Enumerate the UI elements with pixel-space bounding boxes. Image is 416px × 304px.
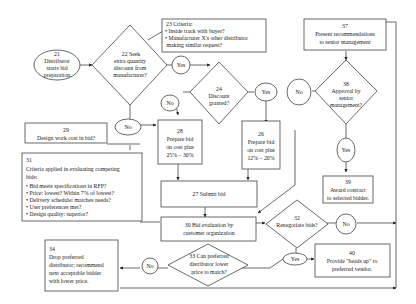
svg-text:Yes: Yes xyxy=(177,62,186,68)
flowchart-diagram: 21Distributorstarts bidpreparation 22 Se… xyxy=(0,0,416,304)
node-28-prepare-bid-high: 28Prepare bidon cost plus25% – 30% xyxy=(158,120,202,164)
node-40-heads-up: 40Provide "heads up" topreferred vendor. xyxy=(315,244,390,277)
node-39-award-contract: 39Award contractto selected bidder. xyxy=(323,176,373,203)
node-24-decision: 24Discountgranted? xyxy=(190,62,248,124)
node-22-decision: 22 Seekextra quantitydiscount frommanufa… xyxy=(92,25,167,105)
svg-text:No: No xyxy=(166,100,173,106)
svg-text:33 Can preferreddistributor lo: 33 Can preferreddistributor lowerprice t… xyxy=(189,253,228,275)
node-27-submit-bid: 27 Submit bid xyxy=(161,181,257,207)
no-label-22: No xyxy=(115,119,141,135)
yes-label-38: Yes xyxy=(337,138,355,162)
svg-text:Yes: Yes xyxy=(291,256,300,262)
yes-label-32: Yes xyxy=(283,253,307,265)
node-32-renegotiate: 32Renegotiate bids? xyxy=(266,200,328,248)
node-34-drop-preferred: 34Drop preferreddistributor; recommendne… xyxy=(45,240,118,291)
node-31-criteria: 31Criteria applied in evaluating competi… xyxy=(22,153,142,221)
svg-text:Yes: Yes xyxy=(342,147,351,153)
node-37-present-recommendations: 37Present recommendationsto senior manag… xyxy=(304,19,386,50)
no-label-32: No xyxy=(336,214,356,234)
svg-text:No: No xyxy=(342,221,349,227)
svg-text:No: No xyxy=(295,89,302,95)
node-29-design-cost: 29Design work cost in bid? xyxy=(25,123,107,143)
node-21-start: 21Distributorstarts bidpreparation xyxy=(34,50,80,80)
svg-text:No: No xyxy=(124,124,131,130)
no-label-33: No xyxy=(142,258,158,274)
svg-text:No: No xyxy=(146,263,153,269)
svg-text:Yes: Yes xyxy=(262,89,271,95)
node-23-criteria: 23 Criteria:• Inside track with buyer?• … xyxy=(162,19,266,52)
node-30-bid-evaluation: 30 Bid evaluation bycustomer organizatio… xyxy=(161,217,256,241)
svg-text:27 Submit bid: 27 Submit bid xyxy=(193,191,226,197)
no-label-38: No xyxy=(287,79,311,105)
node-26-prepare-bid-low: 26Prepare bidon cost plus12% – 20% xyxy=(242,121,280,169)
yes-label-24: Yes xyxy=(255,83,277,101)
node-33-price-match: 33 Can preferreddistributor lowerprice t… xyxy=(168,244,248,286)
node-38-approval: 38Approval byseniormanagement? xyxy=(315,60,377,124)
no-label-24: No xyxy=(161,95,179,111)
yes-label-22: Yes xyxy=(172,56,190,74)
